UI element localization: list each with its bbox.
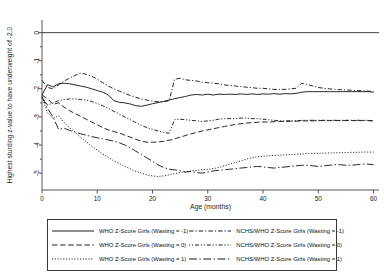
x-tick-label: 0: [40, 195, 44, 202]
x-axis-title: Age (months): [190, 203, 231, 211]
legend-item[interactable]: NCHS/WHO Z-Score Girls (Wasting = 1): [188, 255, 344, 263]
chart-page: 0-1-2-3-4-5 0102030405060 Age (months) H…: [0, 0, 384, 277]
legend-item[interactable]: NCHS/WHO Z-Score Girls (Wasting = -1): [188, 227, 344, 235]
legend-item[interactable]: WHO Z-Score Girls (Wasting = 1): [51, 255, 188, 263]
x-axis-tick-labels: 0102030405060: [40, 195, 377, 202]
y-tick-label: -2: [33, 86, 40, 92]
y-axis-title: Highest stunting z-value to have underwe…: [6, 26, 14, 183]
legend-swatch-dashdotdot-icon: [188, 241, 232, 249]
x-tick-label: 20: [149, 195, 157, 202]
x-tick-label: 40: [259, 195, 267, 202]
legend-swatch-dotted-icon: [51, 255, 95, 263]
legend-swatch-solid-icon: [51, 227, 95, 235]
legend-swatch-dashed-icon: [51, 241, 95, 249]
y-tick-label: -3: [33, 114, 40, 120]
chart-canvas: 0-1-2-3-4-5 0102030405060 Age (months) H…: [0, 0, 384, 215]
legend-swatch-dashdot-icon: [188, 227, 232, 235]
legend-label: NCHS/WHO Z-Score Girls (Wasting = 0): [236, 241, 342, 249]
series-line-4: [42, 97, 373, 133]
x-tick-label: 30: [204, 195, 212, 202]
series-line-0: [42, 83, 373, 106]
legend-item[interactable]: WHO Z-Score Girls (Wasting = -1): [51, 227, 188, 235]
legend-item[interactable]: WHO Z-Score Girls (Wasting = 0): [51, 241, 188, 249]
chart-legend: WHO Z-Score Girls (Wasting = -1)NCHS/WHO…: [47, 219, 337, 271]
y-tick-label: -5: [33, 170, 40, 176]
x-tick-label: 10: [94, 195, 102, 202]
chart-figure: 0-1-2-3-4-5 0102030405060 Age (months) H…: [0, 0, 384, 215]
legend-swatch-longdashdot-icon: [188, 255, 232, 263]
x-axis-ticks: [42, 190, 373, 194]
legend-item[interactable]: NCHS/WHO Z-Score Girls (Wasting = 0): [188, 241, 344, 249]
y-axis-tick-labels: 0-1-2-3-4-5: [33, 30, 40, 176]
y-tick-label: 0: [33, 30, 40, 34]
legend-label: WHO Z-Score Girls (Wasting = 1): [99, 255, 186, 263]
y-tick-label: -4: [33, 142, 40, 148]
x-tick-label: 50: [315, 195, 323, 202]
series-line-5: [42, 97, 373, 173]
y-tick-label: -1: [33, 57, 40, 63]
legend-label: WHO Z-Score Girls (Wasting = -1): [99, 227, 188, 235]
legend-label: WHO Z-Score Girls (Wasting = 0): [99, 241, 186, 249]
y-axis-ticks: [39, 33, 43, 173]
series-line-3: [42, 73, 373, 102]
legend-label: NCHS/WHO Z-Score Girls (Wasting = 1): [236, 255, 342, 263]
series-line-1: [42, 95, 373, 142]
legend-label: NCHS/WHO Z-Score Girls (Wasting = -1): [236, 227, 344, 235]
x-tick-label: 60: [370, 195, 378, 202]
series-lines: [42, 73, 373, 176]
